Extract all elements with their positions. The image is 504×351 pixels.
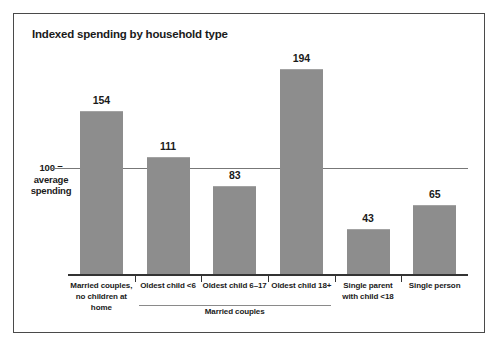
category-label-line2: no children at home [68, 291, 135, 313]
bar [80, 111, 123, 274]
bar [147, 157, 190, 274]
category-label-line1: Single parent [335, 280, 402, 291]
category-label-line1: Single person [401, 280, 468, 291]
bar-value-label: 154 [80, 94, 123, 106]
category-label: Married couples,no children at home [68, 280, 135, 313]
chart-frame: Indexed spending by household type 100 =… [13, 13, 485, 333]
bar-group: 65 [413, 52, 456, 274]
category-label-line2: with child <18 [335, 291, 402, 302]
category-label: Oldest child 6–17 [201, 280, 268, 291]
category-label: Single person [401, 280, 468, 291]
bar-group: 83 [213, 52, 256, 274]
bar-value-label: 111 [147, 140, 190, 152]
bar [280, 69, 323, 274]
category-label: Oldest child <6 [135, 280, 202, 291]
category-label-line1: Married couples, [68, 280, 135, 291]
chart-title: Indexed spending by household type [32, 28, 228, 40]
bar [347, 229, 390, 274]
bar-value-label: 65 [413, 188, 456, 200]
bar-value-label: 43 [347, 212, 390, 224]
category-label: Single parentwith child <18 [335, 280, 402, 302]
group-bracket-line [139, 305, 331, 306]
bar-group: 154 [80, 52, 123, 274]
category-label-line1: Oldest child 6–17 [201, 280, 268, 291]
category-label-line1: Oldest child 18+ [268, 280, 335, 291]
bar-group: 194 [280, 52, 323, 274]
category-label: Oldest child 18+ [268, 280, 335, 291]
bar [413, 205, 456, 274]
bar-value-label: 83 [213, 169, 256, 181]
bar-group: 111 [147, 52, 190, 274]
category-label-line1: Oldest child <6 [135, 280, 202, 291]
group-bracket-label: Married couples [139, 307, 331, 316]
bar-value-label: 194 [280, 52, 323, 64]
bar [213, 186, 256, 274]
bar-group: 43 [347, 52, 390, 274]
plot-area: 154111831944365 [68, 52, 468, 274]
